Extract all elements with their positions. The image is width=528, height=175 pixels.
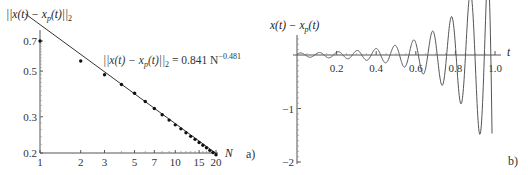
- chart-b-x-ticks: 0.20.40.60.81.0: [307, 51, 502, 74]
- data-point: [133, 92, 136, 95]
- chart-b-curve: [297, 0, 492, 134]
- x-tick-label: 1.0: [488, 62, 502, 74]
- data-point: [179, 127, 182, 130]
- chart-a-fit-annotation: ||x(t) − xp(t)||2 = 0.841 N−0.481: [103, 52, 241, 69]
- data-point: [189, 135, 192, 138]
- data-point: [197, 141, 200, 144]
- data-point: [193, 138, 196, 141]
- data-point: [38, 39, 41, 42]
- figure: ||x(t) − xp(t)||2 12357101520 0.70.50.30…: [0, 0, 528, 175]
- data-point: [211, 151, 214, 154]
- chart-a-ylabel: ||x(t) − xp(t)||2: [6, 8, 72, 23]
- data-point: [174, 123, 177, 126]
- panel-label-a: a): [246, 147, 255, 161]
- y-tick-label: 0.2: [23, 147, 37, 159]
- chart-a: ||x(t) − xp(t)||2 12357101520 0.70.50.30…: [6, 8, 255, 168]
- data-point: [153, 107, 156, 110]
- data-point: [214, 153, 217, 156]
- chart-a-xlabel: N: [224, 147, 234, 159]
- data-point: [205, 146, 208, 149]
- data-point: [160, 113, 163, 116]
- x-tick-label: 1: [37, 156, 43, 168]
- data-point: [120, 83, 123, 86]
- data-point: [79, 59, 82, 62]
- x-tick-label: 15: [194, 156, 206, 168]
- x-tick-label: 20: [211, 156, 223, 168]
- y-tick-label: 0.5: [23, 65, 37, 77]
- x-tick-label: 3: [102, 156, 108, 168]
- chart-b-xlabel: t: [507, 46, 511, 58]
- x-tick-label: 2: [78, 156, 84, 168]
- x-tick-label: 0.2: [330, 62, 344, 74]
- chart-b-ylabel: x(t) − xp(t): [269, 19, 320, 34]
- y-tick-label: −1: [282, 103, 294, 115]
- x-tick-label: 7: [152, 156, 158, 168]
- x-tick-label: 0.4: [369, 62, 383, 74]
- chart-b: x(t) − xp(t) 0.20.40.60.81.0 −1−2 t b): [269, 0, 518, 168]
- data-point: [144, 100, 147, 103]
- data-point: [167, 118, 170, 121]
- x-tick-label: 0.8: [449, 62, 463, 74]
- x-tick-label: 10: [170, 156, 182, 168]
- x-tick-label: 5: [132, 156, 138, 168]
- y-tick-label: 0.7: [23, 35, 37, 47]
- chart-b-y-ticks: −1−2: [282, 39, 301, 168]
- data-point: [208, 149, 211, 152]
- y-tick-label: 0.3: [23, 111, 37, 123]
- data-point: [201, 144, 204, 147]
- data-point: [103, 73, 106, 76]
- y-tick-label: −2: [282, 156, 294, 168]
- data-point: [184, 131, 187, 134]
- panel-label-b: b): [508, 154, 518, 168]
